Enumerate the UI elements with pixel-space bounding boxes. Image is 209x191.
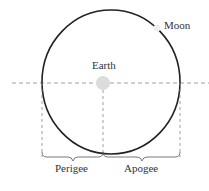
- orbit-diagram: Moon Earth Perigee Apogee: [0, 0, 209, 191]
- earth-label: Earth: [92, 59, 116, 71]
- moon-orbit: [42, 10, 180, 154]
- earth-icon: [96, 76, 110, 90]
- perigee-label: Perigee: [55, 162, 88, 174]
- apogee-label: Apogee: [124, 162, 158, 174]
- perigee-brace: [42, 152, 103, 161]
- moon-label: Moon: [164, 19, 191, 31]
- moon-icon: [154, 25, 161, 32]
